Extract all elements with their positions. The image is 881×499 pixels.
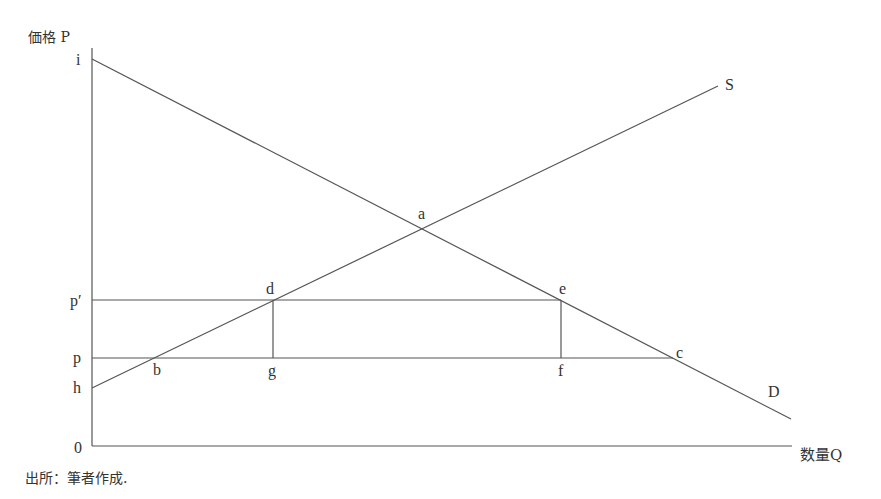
- point-f: f: [558, 363, 563, 379]
- point-g: g: [268, 363, 276, 379]
- label-h: h: [73, 380, 81, 396]
- label-p-prime: p′: [70, 293, 82, 309]
- point-c: c: [676, 345, 683, 361]
- supply-demand-diagram: [0, 0, 881, 499]
- point-a: a: [418, 206, 425, 222]
- label-i: i: [76, 52, 80, 68]
- x-axis-label: 数量Q: [800, 447, 842, 463]
- supply-curve: [92, 86, 718, 388]
- label-origin: 0: [74, 440, 82, 456]
- point-d: d: [266, 281, 274, 297]
- label-p: p: [73, 350, 81, 366]
- label-S: S: [725, 77, 734, 93]
- point-b: b: [153, 362, 161, 378]
- label-D: D: [768, 384, 780, 400]
- demand-curve: [92, 59, 791, 419]
- y-axis-label: 価格 P: [28, 29, 70, 45]
- point-e: e: [559, 281, 566, 297]
- source-note: 出所：筆者作成.: [25, 470, 127, 486]
